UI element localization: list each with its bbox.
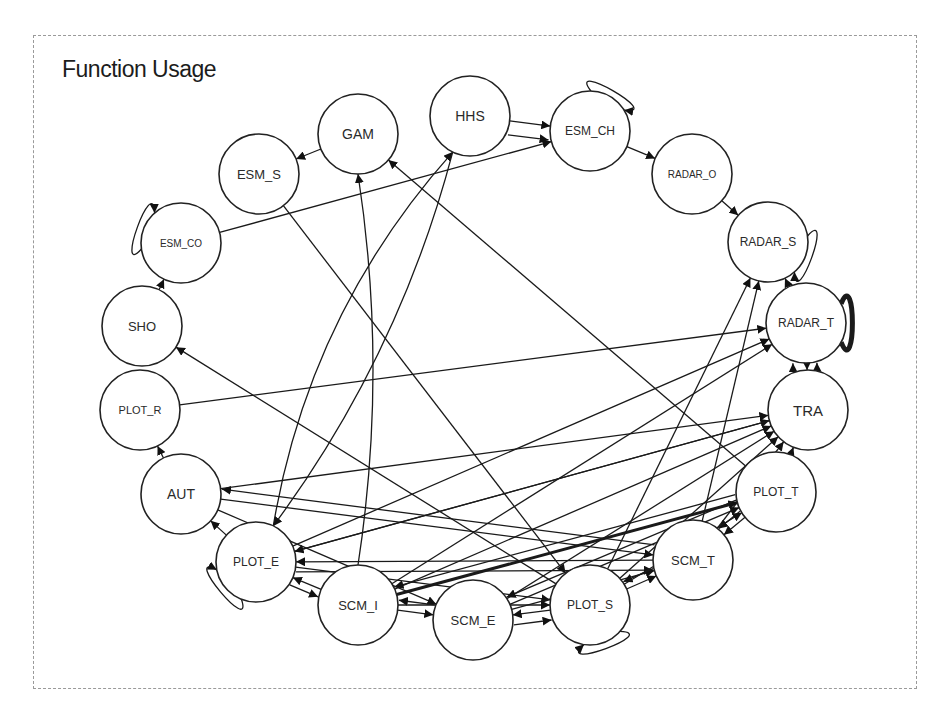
node-label: SCM_E [451, 613, 496, 628]
node-hhs: HHS [430, 76, 510, 156]
node-label: PLOT_E [233, 555, 279, 569]
function-usage-graph: HHSGAMESM_CHESM_SRADAR_OESM_CORADAR_SSHO… [0, 0, 951, 723]
node-label: PLOT_T [753, 485, 799, 499]
edge-hhs-to-esm_ch [508, 135, 549, 140]
node-label: RADAR_O [668, 169, 717, 180]
node-label: ESM_CH [565, 124, 615, 138]
edge-hhs-to-esm_ch [510, 121, 551, 126]
node-scm-t: SCM_T [653, 520, 733, 600]
node-label: ESM_S [237, 167, 281, 182]
edge-scm_t-to-plot_e [296, 560, 653, 562]
node-tra: TRA [768, 370, 848, 450]
edge-plot_s-to-scm_e [513, 610, 551, 615]
node-label: SCM_T [671, 553, 715, 568]
node-radar-t: RADAR_T [766, 283, 846, 363]
node-label: PLOT_S [567, 598, 613, 612]
edge-plot_e-to-radar_t [293, 339, 770, 546]
node-scm-e: SCM_E [433, 580, 513, 660]
node-esm-ch: ESM_CH [550, 91, 630, 171]
node-plot-e: PLOT_E [216, 522, 296, 602]
edge-esm_s-to-plot_s [283, 206, 565, 574]
node-label: TRA [793, 402, 823, 419]
edge-plot_r-to-radar_t [180, 328, 767, 405]
node-aut: AUT [141, 454, 221, 534]
node-plot-s: PLOT_S [550, 565, 630, 645]
node-radar-s: RADAR_S [728, 202, 808, 282]
node-esm-co: ESM_CO [141, 203, 221, 283]
edge-esm_ch-to-radar_o [627, 147, 655, 159]
node-gam: GAM [318, 94, 398, 174]
edge-scm_i-to-scm_e [398, 610, 434, 615]
node-plot-t: PLOT_T [736, 452, 816, 532]
node-label: HHS [455, 108, 485, 124]
node-label: RADAR_T [778, 316, 835, 330]
edge-plot_t-to-tra [791, 447, 794, 454]
node-label: ESM_CO [160, 238, 202, 249]
node-radar-o: RADAR_O [652, 134, 732, 214]
edge-radar_t-to-radar_s [785, 278, 789, 287]
node-label: SCM_I [338, 598, 378, 613]
node-label: SHO [128, 319, 156, 334]
node-plot-r: PLOT_R [100, 370, 180, 450]
edge-plot_e-to-aut [211, 521, 227, 535]
node-label: PLOT_R [119, 404, 162, 416]
node-sho: SHO [102, 286, 182, 366]
node-label: AUT [167, 486, 195, 502]
edge-plot_t-to-scm_t [724, 517, 745, 534]
node-esm-s: ESM_S [219, 134, 299, 214]
edge-radar_o-to-radar_s [722, 201, 738, 216]
node-label: RADAR_S [740, 235, 797, 249]
edge-gam-to-esm_s [296, 149, 321, 159]
edge-sho-to-esm_co [159, 279, 164, 290]
node-scm-i: SCM_I [318, 565, 398, 645]
edge-aut-to-plot_r [158, 446, 164, 458]
node-label: GAM [342, 126, 374, 142]
edge-scm_e-to-plot_s [514, 620, 552, 625]
